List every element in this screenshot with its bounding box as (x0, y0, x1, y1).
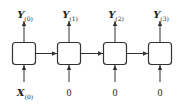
output-label-3: Y(3) (146, 9, 176, 24)
output-label-0: Y(0) (10, 9, 40, 24)
input-label-1: 0 (59, 87, 79, 98)
rnn-cell-1 (58, 43, 81, 65)
output-label-1: Y(1) (55, 9, 85, 24)
output-label-2: Y(2) (101, 9, 131, 24)
input-label-3: 0 (150, 87, 170, 98)
input-label-0: X(0) (10, 87, 40, 102)
rnn-cell-0 (13, 43, 36, 65)
input-label-2: 0 (105, 87, 125, 98)
rnn-cell-2 (104, 43, 127, 65)
rnn-cell-3 (149, 43, 172, 65)
